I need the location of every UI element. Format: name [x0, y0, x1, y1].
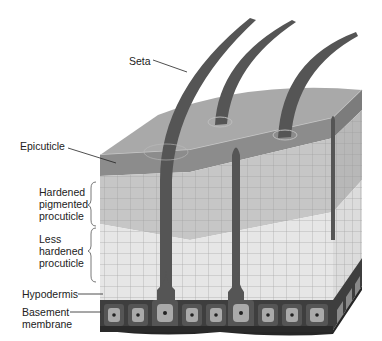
- seta-5: [331, 116, 335, 240]
- label-hypodermis: Hypodermis: [22, 288, 78, 300]
- seta-4: [232, 148, 240, 301]
- label-epicuticle: Epicuticle: [20, 140, 65, 152]
- label-seta: Seta: [129, 55, 151, 67]
- hypodermis-front: [100, 300, 333, 330]
- brace-hardened: [88, 182, 96, 226]
- label-less-hardened-procuticle: Less hardened procuticle: [39, 233, 84, 269]
- label-hardened-procuticle: Hardened pigmented procuticle: [39, 186, 88, 222]
- brace-less-hardened: [88, 228, 96, 282]
- label-basement-membrane: Basement membrane: [22, 306, 72, 330]
